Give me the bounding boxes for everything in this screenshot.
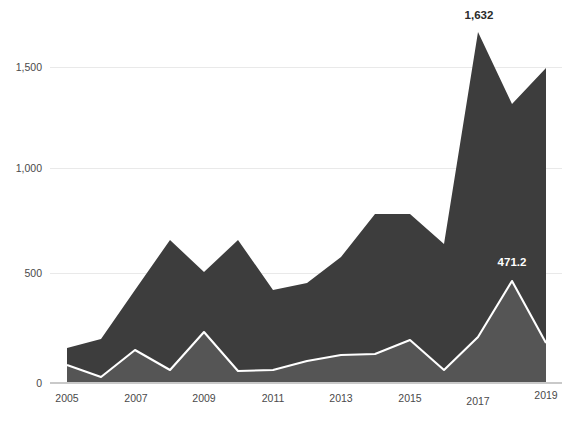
x-tick-label-2005: 2005 — [55, 392, 79, 404]
series-upper-area — [67, 32, 546, 383]
annotation-lower-peak: 471.2 — [498, 256, 527, 268]
series-areas-group — [67, 32, 546, 383]
y-tick-label-1000: 1,000 — [16, 162, 42, 174]
x-axis-tick-labels: 2005 2007 2009 2011 2013 2015 2017 2019 — [55, 389, 558, 407]
y-axis-tick-labels: 1,500 1,000 500 0 — [16, 61, 42, 389]
x-tick-label-2013: 2013 — [329, 392, 353, 404]
x-tick-label-2007: 2007 — [124, 392, 148, 404]
x-tick-label-2019: 2019 — [534, 389, 558, 401]
area-chart: 1,500 1,000 500 0 2005 2007 2009 2011 20… — [0, 0, 568, 425]
y-tick-label-1500: 1,500 — [16, 61, 42, 73]
x-tick-label-2011: 2011 — [262, 392, 285, 404]
chart-plot-area: 1,500 1,000 500 0 2005 2007 2009 2011 20… — [0, 0, 568, 425]
y-tick-label-500: 500 — [24, 267, 42, 279]
annotation-peak-total: 1,632 — [465, 9, 494, 21]
x-tick-label-2015: 2015 — [398, 392, 422, 404]
x-tick-label-2009: 2009 — [192, 392, 216, 404]
x-tick-label-2017: 2017 — [466, 395, 490, 407]
y-tick-label-0: 0 — [36, 377, 42, 389]
